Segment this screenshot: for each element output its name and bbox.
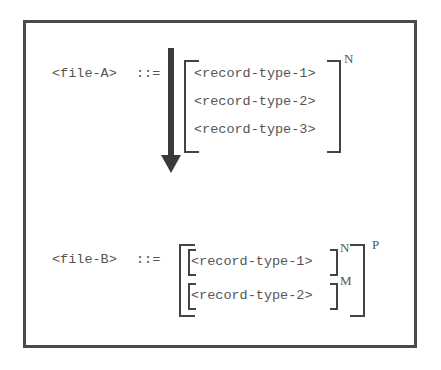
right-bracket-a [327,60,341,153]
outer-right-bracket-b [350,244,365,317]
inner-right-bracket-1 [330,249,338,276]
file-a-item-1: <record-type-1> [194,66,316,82]
file-b-item-1: <record-type-1> [191,254,313,270]
file-a-operator: ::= [136,66,160,82]
file-b-lhs: <file-B> [52,252,117,268]
file-a-item-3: <record-type-3> [194,122,316,138]
file-a-lhs: <file-A> [52,66,117,82]
file-b-outer-repeat-p: P [372,237,379,253]
file-a-item-2: <record-type-2> [194,94,316,110]
file-a-repeat-n: N [344,51,353,67]
inner-right-bracket-2 [330,283,338,310]
file-b-item-2: <record-type-2> [191,288,313,304]
down-arrow-icon [161,155,181,173]
file-b-repeat-n: N [340,240,349,256]
file-b-operator: ::= [136,252,160,268]
transform-arrow-shaft [168,48,174,158]
